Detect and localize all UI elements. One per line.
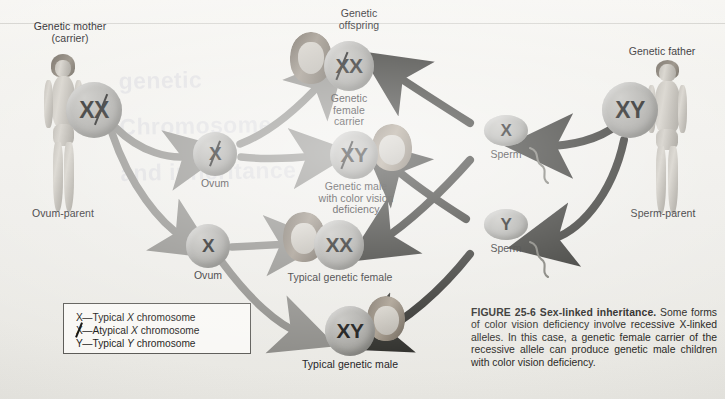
offspring-4-label: Typical genetic male <box>289 359 411 371</box>
chromosome-legend: X—Typical X chromosome X—Atypical X chro… <box>63 303 251 354</box>
ovum-typical-label: Ovum <box>174 270 242 282</box>
father-label: Genetic father <box>602 46 722 58</box>
atypical-x-glyph: X <box>76 324 82 337</box>
father-genotype-circle: XY <box>602 82 658 138</box>
legend-row-typical-y: Y—Typical Y chromosome <box>76 337 250 350</box>
offspring-header-label: Genetic offspring <box>314 8 404 31</box>
ovum-parent-label: Ovum-parent <box>8 208 118 220</box>
offspring-2-label: Genetic male with color vision deficienc… <box>293 181 419 216</box>
genetic-father-figure <box>640 60 698 215</box>
sperm-x-label: Sperm <box>472 149 540 161</box>
ovum-atypical-circle: X <box>193 132 237 176</box>
sperm-x-cell: X <box>484 115 528 146</box>
offspring-3-label: Typical genetic female <box>279 272 401 284</box>
sperm-y-cell: Y <box>484 209 528 240</box>
ovum-typical-circle: X <box>186 224 230 268</box>
offspring-2-portrait <box>372 124 412 171</box>
offspring-2-genotype-circle: XY <box>330 131 378 179</box>
offspring-1-label: Genetic female carrier <box>309 93 389 128</box>
offspring-3-genotype-circle: XX <box>314 220 364 270</box>
offspring-1-genotype-circle: XX <box>324 41 374 91</box>
figure-number: FIGURE 25-6 <box>471 307 536 318</box>
sperm-y-label: Sperm <box>472 243 540 255</box>
offspring-4-genotype-circle: XY <box>325 306 375 356</box>
figure-title: Sex-linked inheritance. <box>540 307 656 318</box>
figure-caption: FIGURE 25-6 Sex-linked inheritance. Some… <box>471 307 717 369</box>
legend-row-atypical-x: X—Atypical X chromosome <box>76 324 250 337</box>
sperm-parent-label: Sperm-parent <box>608 208 718 220</box>
mother-genotype-circle: XX <box>66 82 122 138</box>
ovum-atypical-label: Ovum <box>181 178 249 190</box>
mother-label: Genetic mother (carrier) <box>9 21 131 44</box>
legend-row-typical-x: X—Typical X chromosome <box>76 311 250 324</box>
